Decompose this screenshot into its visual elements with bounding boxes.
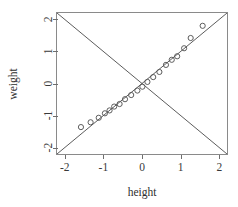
y-axis-title: weight <box>7 68 20 100</box>
x-tick-label: 0 <box>139 161 145 173</box>
y-tick-label: -1 <box>42 111 54 121</box>
y-tick-label: 1 <box>42 48 54 54</box>
y-tick-label: 0 <box>42 80 54 86</box>
x-axis-title: height <box>128 186 158 199</box>
y-tick-label: 2 <box>42 16 54 22</box>
y-tick-label: -2 <box>42 143 54 153</box>
x-tick-label: 1 <box>178 161 184 173</box>
x-tick-label: 2 <box>216 161 222 173</box>
chart-canvas: -2-1012 -2-1012 height weight <box>0 0 238 207</box>
x-tick-label: -2 <box>60 161 70 173</box>
x-tick-label: -1 <box>99 161 109 173</box>
scatter-plot-figure: -2-1012 -2-1012 height weight <box>0 0 238 207</box>
plot-background <box>0 0 238 207</box>
